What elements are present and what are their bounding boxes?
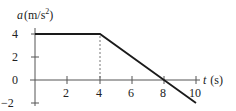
x-tick-label-8: 8: [160, 86, 166, 100]
x-tick-label-10: 10: [189, 86, 201, 100]
y-tick-label-neg2: −2: [1, 96, 14, 110]
x-tick-label-6: 6: [128, 86, 134, 100]
x-axis-label: t(s): [203, 73, 223, 87]
y-tick-label-2: 2: [12, 50, 18, 64]
x-tick-label-4: 4: [96, 86, 102, 100]
x-axis-unit: (s): [210, 73, 223, 87]
x-tick-label-2: 2: [63, 86, 69, 100]
y-axis-var: a: [17, 8, 23, 22]
y-tick-label-4: 4: [12, 27, 18, 41]
y-axis-unit-close: ): [49, 8, 53, 22]
acceleration-time-graph: 4 2 0 −2 2 4 6 8 10 a(m/s2) t(s): [0, 0, 236, 111]
acceleration-line: [35, 34, 196, 103]
y-axis-label: a(m/s2): [17, 7, 53, 22]
y-tick-label-0: 0: [12, 73, 18, 87]
y-axis-unit: (m/s: [24, 8, 46, 22]
x-axis-var: t: [203, 73, 207, 87]
